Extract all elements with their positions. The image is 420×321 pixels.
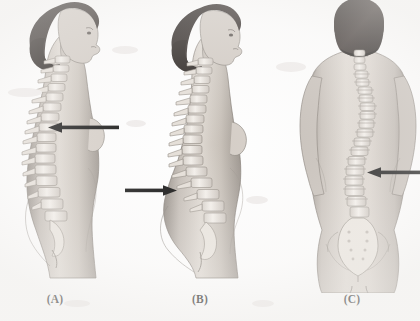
scan-artifact	[126, 120, 146, 127]
arrow-panel-c	[365, 165, 420, 180]
panel-a-figure	[0, 0, 140, 280]
scan-artifact	[64, 300, 90, 307]
scan-artifact	[276, 62, 306, 72]
figure-root: (A) (B) (C)	[0, 0, 420, 321]
scoliosis-illustration	[296, 0, 420, 293]
lordosis-illustration	[140, 0, 275, 280]
scan-artifact	[252, 300, 274, 307]
scan-artifact	[8, 88, 42, 97]
kyphosis-illustration	[0, 0, 140, 280]
panel-b-figure	[140, 0, 275, 280]
caption-panel-b: (B)	[170, 293, 230, 305]
arrow-panel-b	[125, 183, 179, 198]
caption-panel-c: (C)	[322, 293, 382, 305]
scan-artifact	[112, 46, 138, 54]
arrow-panel-a	[46, 120, 120, 135]
panel-c-figure	[296, 0, 420, 293]
scan-artifact	[246, 196, 268, 204]
